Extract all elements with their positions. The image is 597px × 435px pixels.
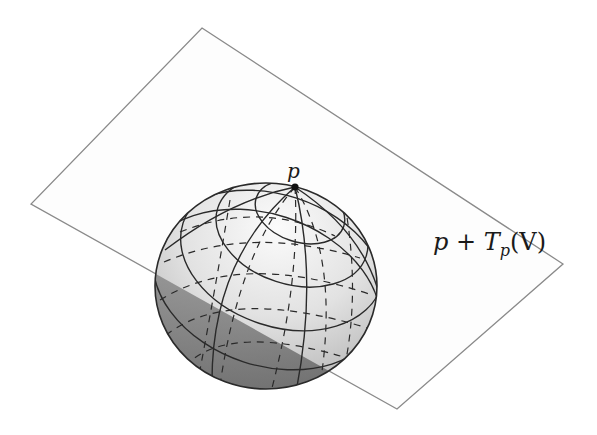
plane-label-prefix: p + T <box>433 228 500 256</box>
plane-label-subscript: p <box>500 241 510 260</box>
point-p-marker <box>291 183 298 190</box>
tangent-plane-diagram <box>0 0 597 435</box>
plane-label-suffix: (V) <box>510 228 546 256</box>
tangent-plane-label: p + Tp(V) <box>433 230 546 254</box>
point-p-label: p <box>287 161 300 181</box>
